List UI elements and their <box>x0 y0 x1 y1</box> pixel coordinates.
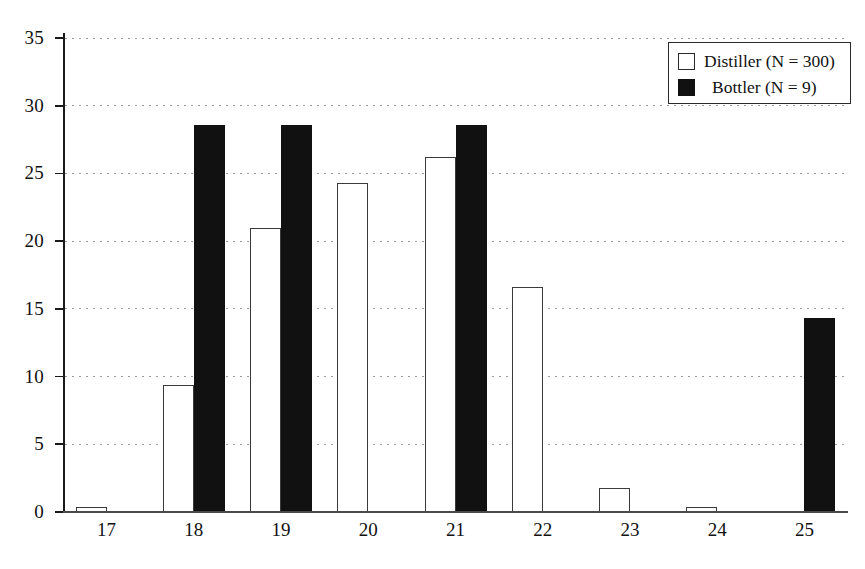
x-tick-label-19: 19 <box>251 520 311 540</box>
y-tick-label-35: 35 <box>10 28 44 47</box>
filled-square-swatch <box>678 79 695 96</box>
x-tick-label-22: 22 <box>513 520 573 540</box>
x-tick-label-18: 18 <box>164 520 224 540</box>
x-axis-line <box>63 511 848 513</box>
bar-distiller-23 <box>599 488 630 512</box>
legend-label-distiller: Distiller (N = 300) <box>704 52 835 70</box>
bar-bottler-18 <box>194 125 225 512</box>
x-tick-label-23: 23 <box>600 520 660 540</box>
x-tick-label-24: 24 <box>687 520 747 540</box>
bars-layer <box>63 38 848 512</box>
bar-chart-figure: 05101520253035 171819202122232425 Distil… <box>0 0 865 569</box>
y-tick-label-10: 10 <box>10 367 44 386</box>
x-tick-label-20: 20 <box>338 520 398 540</box>
x-tick-label-25: 25 <box>774 520 834 540</box>
bar-bottler-21 <box>456 125 487 512</box>
open-square-swatch <box>678 53 695 70</box>
legend-item-bottler: Bottler (N = 9) <box>678 74 842 100</box>
y-tick-label-0: 0 <box>10 502 44 521</box>
y-tick-label-30: 30 <box>10 96 44 115</box>
y-tick-label-5: 5 <box>10 434 44 453</box>
chart-legend: Distiller (N = 300) Bottler (N = 9) <box>668 42 851 104</box>
legend-item-distiller: Distiller (N = 300) <box>678 48 842 74</box>
y-tick-label-20: 20 <box>10 231 44 250</box>
bar-distiller-22 <box>512 287 543 512</box>
bar-bottler-25 <box>804 318 835 512</box>
bar-distiller-19 <box>250 228 281 512</box>
legend-label-bottler: Bottler (N = 9) <box>712 78 817 96</box>
bar-distiller-18 <box>163 385 194 512</box>
bar-bottler-19 <box>281 125 312 512</box>
x-tick-label-21: 21 <box>426 520 486 540</box>
x-tick-label-17: 17 <box>77 520 137 540</box>
bar-distiller-20 <box>337 183 368 512</box>
bar-distiller-21 <box>425 157 456 512</box>
y-tick-label-15: 15 <box>10 299 44 318</box>
y-tick-label-25: 25 <box>10 163 44 182</box>
